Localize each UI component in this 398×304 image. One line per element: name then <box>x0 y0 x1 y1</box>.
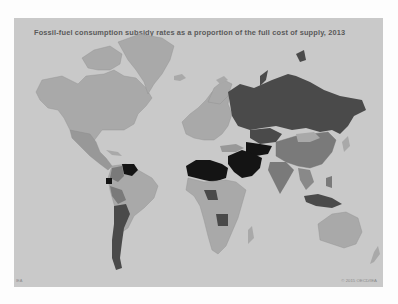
region-arctic-island-russia[interactable] <box>296 50 306 62</box>
region-north-africa[interactable] <box>186 160 228 182</box>
region-madagascar[interactable] <box>248 226 254 244</box>
corner-mark: IEA <box>16 278 22 283</box>
region-australia[interactable] <box>318 212 362 248</box>
region-africa[interactable] <box>186 178 246 254</box>
region-japan[interactable] <box>342 136 350 152</box>
region-iceland[interactable] <box>174 74 186 81</box>
world-choropleth-map <box>14 18 383 287</box>
region-southeast-asia[interactable] <box>298 168 314 190</box>
region-india[interactable] <box>268 162 294 194</box>
region-arctic-islands[interactable] <box>82 46 122 70</box>
region-caribbean[interactable] <box>106 150 122 156</box>
region-indonesia[interactable] <box>304 194 342 208</box>
region-angola[interactable] <box>216 214 228 226</box>
region-philippines[interactable] <box>326 176 332 188</box>
map-frame: Fossil-fuel consumption subsidy rates as… <box>14 18 383 287</box>
region-argentina[interactable] <box>112 204 130 270</box>
copyright-notice: © 2015 OECD/IEA <box>341 278 377 283</box>
region-ecuador[interactable] <box>106 178 112 184</box>
region-mexico[interactable] <box>70 130 112 170</box>
region-russia[interactable] <box>228 74 366 134</box>
region-north-america[interactable] <box>36 70 152 146</box>
region-new-zealand[interactable] <box>370 246 380 264</box>
